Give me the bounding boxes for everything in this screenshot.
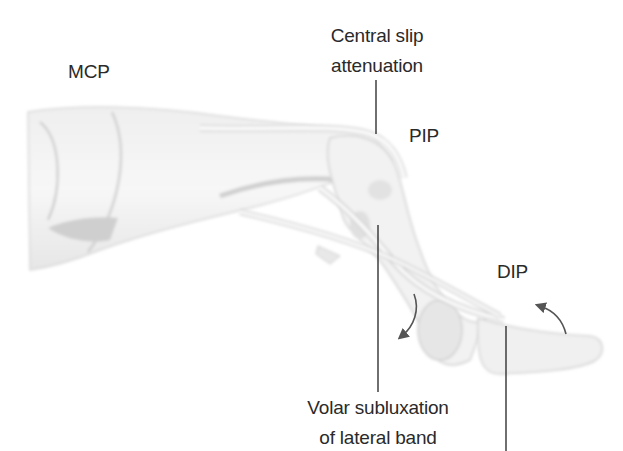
- pip-label: PIP: [409, 124, 439, 147]
- central-slip-line1: Central slip: [322, 24, 432, 47]
- volar-subluxation-line1: Volar subluxation: [295, 396, 461, 419]
- mcp-label: MCP: [68, 60, 110, 83]
- central-slip-label: Central slip attenuation: [322, 24, 432, 77]
- volar-subluxation-line2: of lateral band: [295, 426, 461, 449]
- distal-phalanx: [478, 318, 603, 374]
- dip-label: DIP: [497, 260, 528, 283]
- dip-hyperextension-arrow: [540, 306, 566, 334]
- volar-subluxation-label: Volar subluxation of lateral band: [295, 396, 461, 449]
- central-slip-line2: attenuation: [322, 54, 432, 77]
- finger-diagram: MCP PIP DIP Central slip attenuation Vol…: [0, 0, 623, 451]
